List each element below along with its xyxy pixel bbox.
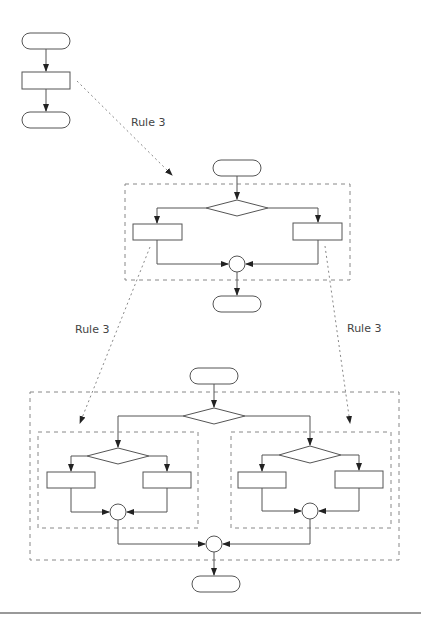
end-terminal — [213, 296, 261, 312]
sub-block-right — [231, 432, 391, 528]
join-node — [302, 503, 318, 519]
stage-sequence — [22, 33, 70, 128]
arrow — [246, 240, 318, 264]
decision-diamond — [87, 448, 149, 464]
process-box — [22, 72, 70, 89]
rule-label-top: Rule 3 — [131, 116, 165, 129]
arrow — [319, 488, 359, 511]
process-left — [47, 472, 95, 488]
process-right — [335, 471, 383, 488]
process-left — [133, 224, 182, 240]
arrow — [262, 455, 279, 471]
arrow — [157, 208, 206, 223]
arrow — [71, 488, 109, 512]
end-terminal — [192, 576, 240, 592]
arrow — [268, 208, 318, 222]
arrow — [245, 416, 310, 445]
arrow — [223, 519, 310, 544]
stage-if-else — [125, 160, 350, 312]
arrow — [127, 488, 167, 512]
start-terminal — [190, 368, 238, 384]
decision-diamond — [279, 446, 341, 463]
start-terminal — [213, 160, 261, 176]
flowchart-diagram: Rule 3 Rule 3 Rule 3 — [0, 0, 423, 619]
start-terminal — [22, 33, 70, 49]
process-right — [143, 472, 191, 488]
arrow — [149, 456, 167, 471]
stage-nested-if-else — [30, 368, 399, 592]
arrow — [157, 240, 228, 264]
arrow — [118, 520, 205, 544]
process-right — [293, 223, 342, 240]
footer-divider — [0, 612, 421, 614]
end-terminal — [22, 112, 70, 128]
arrow — [262, 488, 301, 511]
join-node — [229, 256, 245, 272]
decision-diamond — [206, 200, 268, 216]
join-node — [206, 536, 222, 552]
decision-diamond — [183, 408, 245, 424]
rule-label-right: Rule 3 — [347, 322, 381, 335]
process-left — [238, 472, 286, 488]
arrow — [341, 455, 359, 470]
join-node — [110, 504, 126, 520]
arrow — [71, 456, 87, 471]
rule-label-left: Rule 3 — [75, 323, 109, 336]
